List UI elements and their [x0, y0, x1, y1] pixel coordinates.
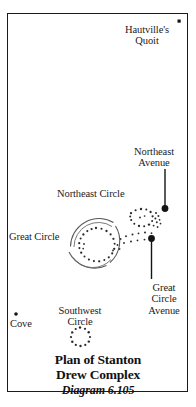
- figure-title: Plan of Stanton Drew Complex: [9, 352, 187, 382]
- label-southwest-circle: Southwest Circle: [47, 305, 113, 328]
- figure-diagram-number: Diagram 6.105: [9, 383, 187, 397]
- label-great-circle: Great Circle: [9, 231, 73, 242]
- label-great-circle-avenue: Great Circle Avenue: [140, 282, 188, 316]
- label-hautvilles-quoit: Hautville's Quoit: [112, 24, 182, 47]
- label-northeast-circle: Northeast Circle: [57, 188, 149, 199]
- label-northeast-avenue: Northeast Avenue: [122, 146, 186, 169]
- stanton-drew-plan-figure: Hautville's Quoit Northeast Avenue North…: [0, 0, 196, 407]
- figure-title-block: Plan of Stanton Drew Complex Diagram 6.1…: [9, 352, 187, 398]
- label-cove: Cove: [10, 318, 54, 329]
- plan-frame-border: [7, 13, 188, 392]
